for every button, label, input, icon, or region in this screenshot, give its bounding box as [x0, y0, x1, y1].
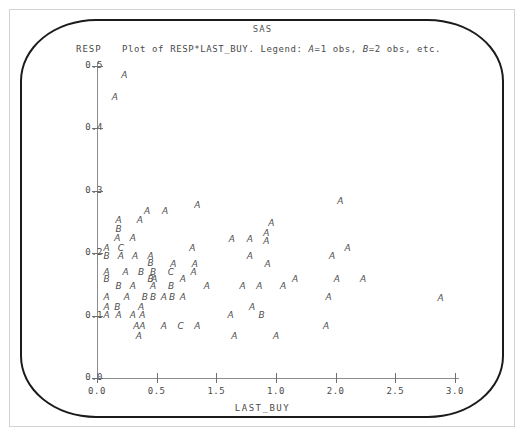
y-axis-title: RESP: [76, 44, 102, 54]
data-point-marker: A: [180, 292, 186, 301]
data-point-marker: A: [280, 281, 286, 290]
legend-caption: Plot of RESP*LAST_BUY. Legend: A=1 obs, …: [122, 44, 441, 54]
data-point-marker: B: [169, 292, 175, 301]
data-point-marker: A: [239, 281, 245, 290]
y-tick-mark: [92, 253, 103, 254]
data-point-marker: B: [138, 267, 144, 276]
data-point-marker: A: [191, 267, 197, 276]
x-tick-mark: [276, 373, 277, 383]
data-point-marker: A: [130, 310, 136, 319]
y-tick-label: 0.1: [71, 310, 103, 320]
x-axis-line: [97, 378, 459, 379]
data-point-marker: B: [142, 292, 148, 301]
data-point-marker: A: [325, 292, 331, 301]
sas-plot-screenshot: SAS RESP Plot of RESP*LAST_BUY. Legend: …: [0, 0, 525, 443]
y-tick-mark: [92, 66, 103, 67]
x-tick-mark: [455, 373, 456, 383]
y-tick-label: 0.2: [71, 247, 103, 257]
data-point-marker: A: [114, 234, 120, 243]
data-point-marker: C: [177, 322, 183, 331]
legend-prefix-text: Plot of RESP*LAST_BUY. Legend:: [122, 44, 309, 54]
x-tick-label: 1.5: [194, 386, 238, 396]
data-point-marker: A: [231, 331, 237, 340]
data-point-marker: A: [265, 260, 271, 269]
data-point-marker: A: [103, 310, 109, 319]
x-tick-label: 0.0: [75, 386, 119, 396]
data-point-marker: A: [162, 207, 168, 216]
data-point-marker: A: [137, 216, 143, 225]
data-point-marker: A: [263, 237, 269, 246]
x-tick-label: 3.0: [433, 386, 477, 396]
data-point-marker: A: [229, 235, 235, 244]
data-point-marker: A: [273, 331, 279, 340]
x-tick-label: 0.5: [135, 386, 179, 396]
data-point-marker: B: [103, 275, 109, 284]
data-point-marker: A: [189, 244, 195, 253]
data-point-marker: A: [124, 292, 130, 301]
x-tick-mark: [395, 373, 396, 383]
data-point-marker: A: [334, 275, 340, 284]
y-axis-line: [97, 62, 98, 379]
x-tick-label: 2.5: [373, 386, 417, 396]
x-tick-mark: [336, 373, 337, 383]
data-point-marker: A: [247, 235, 253, 244]
data-point-marker: A: [136, 331, 142, 340]
data-point-marker: A: [249, 303, 255, 312]
x-tick-label: 2.0: [314, 386, 358, 396]
data-point-marker: A: [292, 275, 298, 284]
data-point-marker: A: [360, 275, 366, 284]
data-point-marker: A: [139, 310, 145, 319]
data-point-marker: B: [103, 251, 109, 260]
data-point-marker: A: [130, 281, 136, 290]
y-tick-mark: [92, 128, 103, 129]
data-point-marker: A: [103, 292, 109, 301]
x-tick-label: 1.0: [254, 386, 298, 396]
data-point-marker: A: [144, 207, 150, 216]
y-tick-label: 0.3: [71, 185, 103, 195]
y-tick-label: 0.5: [71, 60, 103, 70]
data-point-marker: A: [337, 197, 343, 206]
data-point-marker: A: [112, 93, 118, 102]
x-tick-mark: [97, 373, 98, 383]
data-point-marker: A: [115, 310, 121, 319]
data-point-marker: A: [123, 267, 129, 276]
data-point-marker: B: [259, 310, 265, 319]
data-point-marker: A: [247, 251, 253, 260]
data-point-marker: A: [121, 71, 127, 80]
data-point-marker: A: [194, 201, 200, 210]
data-point-marker: A: [150, 281, 156, 290]
data-point-marker: A: [180, 275, 186, 284]
data-point-marker: A: [228, 310, 234, 319]
data-point-marker: A: [132, 251, 138, 260]
y-tick-label: 0.4: [71, 122, 103, 132]
data-point-marker: A: [118, 251, 124, 260]
data-point-marker: A: [161, 292, 167, 301]
plot-canvas: SAS RESP Plot of RESP*LAST_BUY. Legend: …: [0, 0, 525, 443]
data-point-marker: A: [194, 322, 200, 331]
data-point-marker: A: [161, 322, 167, 331]
y-tick-mark: [92, 316, 103, 317]
y-tick-label: 0.0: [71, 372, 103, 382]
y-tick-mark: [92, 191, 103, 192]
data-point-marker: A: [438, 294, 444, 303]
data-point-marker: B: [168, 281, 174, 290]
data-point-marker: B: [115, 281, 121, 290]
data-point-marker: B: [150, 292, 156, 301]
x-tick-mark: [216, 373, 217, 383]
x-axis-title: LAST_BUY: [0, 403, 525, 413]
data-point-marker: A: [323, 322, 329, 331]
legend-b-text: =2 obs, etc.: [369, 44, 441, 54]
data-point-marker: A: [345, 244, 351, 253]
data-point-marker: C: [168, 267, 174, 276]
x-tick-mark: [157, 373, 158, 383]
data-point-marker: A: [256, 281, 262, 290]
data-point-marker: A: [329, 251, 335, 260]
data-point-marker: A: [204, 281, 210, 290]
sas-title: SAS: [0, 24, 525, 34]
legend-a-text: =1 obs,: [315, 44, 363, 54]
data-point-marker: A: [130, 234, 136, 243]
